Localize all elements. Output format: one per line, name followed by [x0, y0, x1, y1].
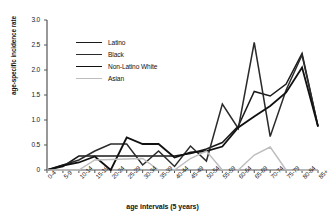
y-tick-label: 1.5 [20, 91, 40, 98]
legend-swatch-icon [76, 42, 102, 43]
y-tick-label: 3.0 [20, 16, 40, 23]
legend-item-non-latino-white: Non-Latino White [76, 60, 157, 72]
legend-item-black: Black [76, 48, 157, 60]
y-tick-label: 2.0 [20, 66, 40, 73]
legend-item-asian: Asian [76, 72, 157, 84]
legend-item-latino: Latino [76, 36, 157, 48]
legend-label: Black [108, 51, 124, 58]
legend-label: Asian [108, 75, 124, 82]
legend-swatch-icon [76, 66, 102, 67]
y-tick-label: 2.5 [20, 41, 40, 48]
legend-swatch-icon [76, 54, 102, 55]
y-tick-label: 0.5 [20, 141, 40, 148]
legend-swatch-icon [76, 78, 102, 79]
y-tick-label: 1.0 [20, 116, 40, 123]
legend-label: Non-Latino White [108, 63, 157, 70]
legend-label: Latino [108, 39, 125, 46]
chart-legend: LatinoBlackNon-Latino WhiteAsian [76, 36, 157, 84]
y-tick-label: 0 [20, 166, 40, 173]
